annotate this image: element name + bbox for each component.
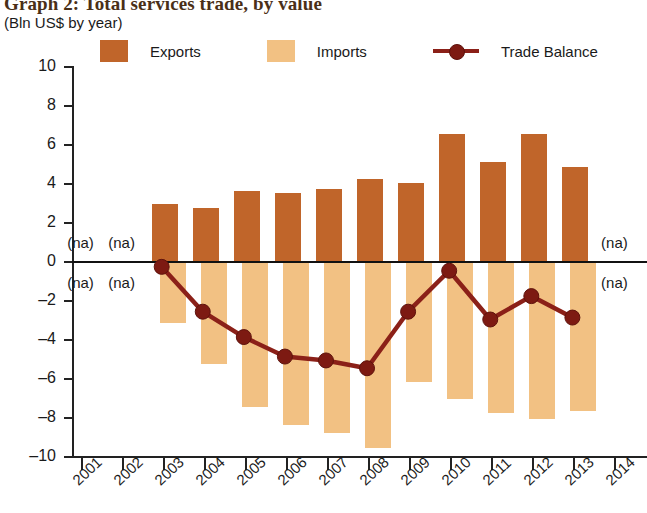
x-axis-label-2008: 2008 (356, 453, 392, 488)
bar-imports-2010 (447, 261, 473, 399)
na-label-2001-below: (na) (67, 274, 94, 291)
bar-imports-2005 (242, 261, 268, 407)
x-axis-line (72, 456, 647, 458)
chart-legend: Exports Imports Trade Balance (100, 40, 598, 62)
y-tick-label-4: 4 (16, 174, 56, 192)
chart-plot-area: 1086420–2–4–6–8–10 (na)(na)(na)(na)(na)(… (72, 66, 618, 456)
bar-exports-2003 (152, 204, 178, 261)
y-tick-label--2: –2 (16, 291, 56, 309)
bar-imports-2013 (570, 261, 596, 411)
x-axis-label-2012: 2012 (520, 453, 556, 488)
legend-label-exports: Exports (150, 43, 201, 60)
y-tick-label-6: 6 (16, 135, 56, 153)
y-tick-6 (64, 144, 72, 146)
y-tick--6 (64, 378, 72, 380)
y-tick-label--6: –6 (16, 369, 56, 387)
bar-exports-2010 (439, 134, 465, 261)
x-axis-label-2001: 2001 (69, 453, 105, 488)
y-tick-label-2: 2 (16, 213, 56, 231)
x-axis-label-2013: 2013 (561, 453, 597, 488)
y-tick--4 (64, 339, 72, 341)
legend-item-imports: Imports (267, 40, 367, 62)
bar-imports-2012 (529, 261, 555, 419)
x-axis-label-2003: 2003 (151, 453, 187, 488)
x-axis-label-2011: 2011 (479, 454, 514, 488)
chart-title: Graph 2: Total services trade, by value (4, 0, 322, 15)
y-tick--2 (64, 300, 72, 302)
x-axis-label-2014: 2014 (602, 453, 638, 488)
bar-exports-2008 (357, 179, 383, 261)
line-marker-icon-trade-balance (433, 40, 479, 62)
y-tick--10 (64, 456, 72, 458)
bar-imports-2011 (488, 261, 514, 413)
bar-imports-2003 (160, 261, 186, 323)
legend-label-imports: Imports (317, 43, 367, 60)
bar-exports-2005 (234, 191, 260, 261)
zero-baseline (72, 261, 647, 263)
y-tick-label--4: –4 (16, 330, 56, 348)
chart-subtitle: (Bln US$ by year) (4, 14, 122, 31)
x-axis-label-2002: 2002 (110, 453, 146, 488)
x-axis-label-2009: 2009 (397, 453, 433, 488)
y-tick-label--10: –10 (16, 447, 56, 465)
legend-item-exports: Exports (100, 40, 201, 62)
na-label-2002-below: (na) (108, 274, 135, 291)
y-tick-8 (64, 105, 72, 107)
bar-imports-2006 (283, 261, 309, 425)
na-label-2001-above: (na) (67, 233, 94, 250)
x-axis-label-2007: 2007 (315, 453, 351, 488)
y-tick-4 (64, 183, 72, 185)
legend-item-trade-balance: Trade Balance (433, 40, 598, 62)
x-axis-label-2010: 2010 (438, 453, 474, 488)
y-tick--8 (64, 417, 72, 419)
y-tick-label-0: 0 (16, 252, 56, 270)
bar-imports-2007 (324, 261, 350, 433)
y-tick-label-8: 8 (16, 96, 56, 114)
y-tick-label-10: 10 (16, 57, 56, 75)
legend-label-trade-balance: Trade Balance (501, 43, 598, 60)
bar-exports-2009 (398, 183, 424, 261)
bar-imports-2009 (406, 261, 432, 382)
y-tick-label--8: –8 (16, 408, 56, 426)
na-label-2014-below: (na) (601, 274, 628, 291)
y-tick-0 (64, 261, 72, 263)
bar-exports-2007 (316, 189, 342, 261)
bar-exports-2011 (480, 162, 506, 261)
na-label-2014-above: (na) (601, 233, 628, 250)
x-axis-label-2005: 2005 (233, 453, 269, 488)
bar-imports-2008 (365, 261, 391, 448)
bar-exports-2013 (562, 167, 588, 261)
na-label-2002-above: (na) (108, 233, 135, 250)
square-swatch-icon-exports (100, 40, 128, 62)
bar-imports-2004 (201, 261, 227, 364)
y-tick-2 (64, 222, 72, 224)
y-tick-10 (64, 66, 72, 68)
bar-exports-2006 (275, 193, 301, 261)
bar-exports-2004 (193, 208, 219, 261)
x-axis-label-2004: 2004 (192, 453, 228, 488)
square-swatch-icon-imports (267, 40, 295, 62)
bar-exports-2012 (521, 134, 547, 261)
x-axis-label-2006: 2006 (274, 453, 310, 488)
